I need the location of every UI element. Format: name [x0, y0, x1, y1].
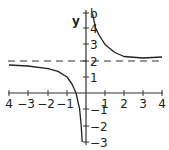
x-tick-label: 1 — [101, 97, 109, 111]
x-tick-label: 4 — [158, 97, 166, 111]
y-tick-label: 1 — [90, 71, 98, 85]
x-tick-label: −2 — [37, 97, 55, 111]
y-tick-label: b — [90, 7, 98, 21]
x-tick-label: 4 — [5, 97, 13, 111]
y-tick-label: 3 — [90, 38, 98, 52]
x-tick-label: 2 — [120, 97, 128, 111]
graph: y b 4 3 2 1 −1 −2 −3 4 −3 −2 −1 1 2 3 4 — [0, 0, 169, 150]
x-tick-label: −1 — [56, 97, 74, 111]
y-axis-title: y — [72, 14, 80, 28]
curve-right-branch — [93, 14, 163, 58]
x-tick-label: −3 — [17, 97, 35, 111]
y-tick-label: −2 — [90, 120, 108, 134]
y-tick-label: −3 — [90, 136, 108, 150]
y-tick-label: 4 — [90, 22, 98, 36]
y-tick-label: 2 — [90, 55, 98, 69]
x-tick-label: 3 — [139, 97, 147, 111]
